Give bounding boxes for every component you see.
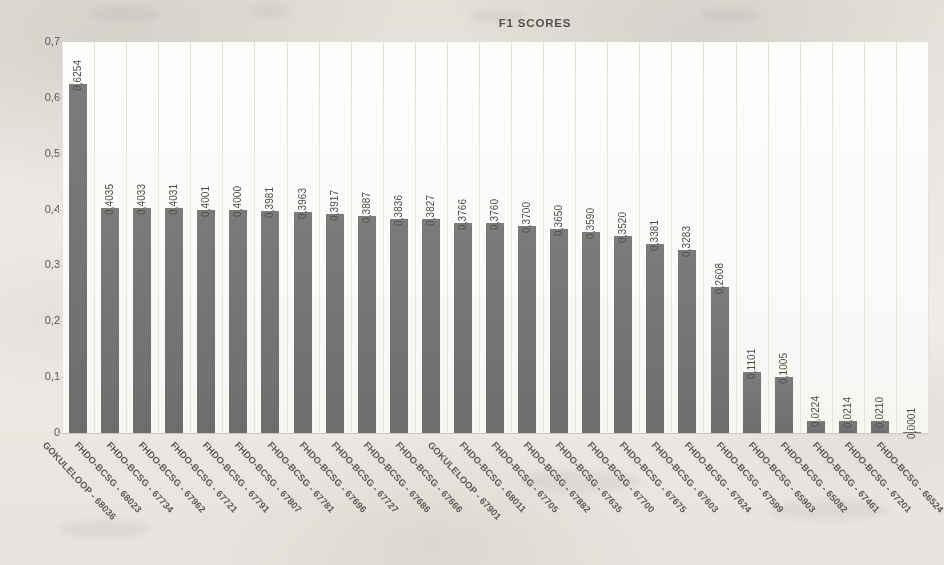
gridline: [190, 42, 191, 434]
y-axis-tick-label: 0,7: [20, 35, 60, 47]
bar-value-label: 0,0214: [842, 397, 853, 428]
gridline: [319, 42, 320, 434]
bar-value-label: 0,3963: [297, 187, 308, 218]
gridline: [896, 42, 897, 434]
chart-title: F1 SCORES: [63, 17, 944, 29]
gridline: [158, 42, 159, 434]
bar: [743, 372, 761, 433]
bar: [646, 244, 664, 433]
bar-value-label: 0,3650: [553, 205, 564, 236]
gridline: [94, 42, 95, 434]
bar: [326, 214, 344, 433]
bar: [486, 223, 504, 433]
bar-value-label: 0,1101: [746, 348, 757, 378]
bar-value-label: 0,3760: [489, 199, 500, 230]
gridline: [62, 42, 63, 434]
bar: [165, 208, 183, 433]
y-axis-tick-label: 0: [20, 426, 60, 438]
gridline: [607, 42, 608, 434]
f1-scores-bar-chart: F1 SCORES 0,70,60,50,40,30,20,10 0,62540…: [0, 0, 944, 565]
bar: [550, 229, 568, 433]
y-axis-tick-label: 0,5: [20, 147, 60, 159]
bar: [390, 219, 408, 433]
gridline: [575, 42, 576, 434]
y-axis-tick-label: 0,6: [20, 91, 60, 103]
bar: [711, 287, 729, 433]
bar-value-label: 0,3283: [681, 225, 692, 256]
bar-value-label: 0,2608: [714, 263, 725, 294]
bar-value-label: 0,3381: [649, 220, 660, 251]
bar: [261, 211, 279, 433]
bar-value-label: 0,3766: [457, 198, 468, 229]
bar-value-label: 0,3917: [329, 190, 340, 221]
bar: [614, 236, 632, 433]
bar-value-label: 0,4000: [232, 185, 243, 216]
x-axis-line: [62, 433, 928, 434]
bar-value-label: 0,0210: [874, 397, 885, 428]
bar-value-label: 0,6254: [72, 59, 83, 90]
bar-value-label: 0,4035: [104, 183, 115, 214]
gridline: [222, 42, 223, 434]
gridline: [671, 42, 672, 434]
bar-value-label: 0,3836: [393, 195, 404, 226]
bar-value-label: 0,0224: [810, 396, 821, 427]
bar-value-label: 0,4033: [136, 184, 147, 215]
bar: [422, 219, 440, 433]
gridline: [736, 42, 737, 434]
y-axis-tick-label: 0,1: [20, 370, 60, 382]
gridline: [415, 42, 416, 434]
bar: [518, 226, 536, 433]
gridline: [832, 42, 833, 434]
bar-value-label: 0,3590: [585, 208, 596, 239]
gridline: [543, 42, 544, 434]
gridline: [126, 42, 127, 434]
bar-value-label: 0,4031: [168, 184, 179, 215]
bar: [582, 232, 600, 433]
gridline: [254, 42, 255, 434]
gridline: [479, 42, 480, 434]
y-axis-tick-label: 0,3: [20, 258, 60, 270]
bar: [294, 212, 312, 433]
y-axis-tick-label: 0,4: [20, 203, 60, 215]
gridline: [383, 42, 384, 434]
gridline: [800, 42, 801, 434]
bar-value-label: 0,4001: [200, 185, 211, 216]
bar: [133, 208, 151, 433]
bar: [775, 377, 793, 433]
bar: [229, 210, 247, 433]
gridline: [768, 42, 769, 434]
gridline: [351, 42, 352, 434]
bar-value-label: 0,3700: [521, 202, 532, 233]
gridline: [703, 42, 704, 434]
bar-value-label: 0,3981: [264, 186, 275, 217]
gridline: [511, 42, 512, 434]
bar-value-label: 0,3887: [361, 192, 372, 223]
bar: [454, 223, 472, 433]
gridline: [447, 42, 448, 434]
bar-value-label: 0,1005: [778, 353, 789, 384]
bar-value-label: 0,3827: [425, 195, 436, 226]
gridline: [287, 42, 288, 434]
bar-value-label: 0,0001: [906, 408, 917, 439]
bar: [678, 250, 696, 433]
bar: [69, 84, 87, 433]
y-axis-tick-label: 0,2: [20, 314, 60, 326]
bar: [358, 216, 376, 433]
bar-value-label: 0,3520: [617, 212, 628, 243]
bar: [197, 210, 215, 433]
gridline: [864, 42, 865, 434]
gridline: [639, 42, 640, 434]
bar: [101, 208, 119, 433]
gridline: [928, 42, 929, 434]
